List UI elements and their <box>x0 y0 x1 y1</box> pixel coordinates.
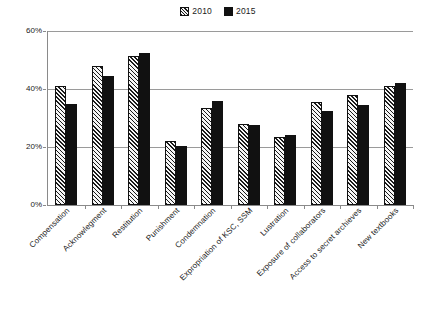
x-axis-labels: CompensationAcknowlegmentRestitutionPuni… <box>47 206 412 311</box>
x-axis-label-3: Punishment <box>144 206 181 243</box>
bar-group-7 <box>304 31 341 205</box>
bar-2015-2[interactable] <box>139 53 150 205</box>
x-axis-label-6: Lustration <box>259 206 291 238</box>
bar-group-8 <box>340 31 377 205</box>
bar-2010-1[interactable] <box>92 66 103 205</box>
bar-2015-3[interactable] <box>176 146 187 205</box>
legend-entry-2010: 2010 <box>180 6 212 16</box>
x-axis-label-2: Restitution <box>111 206 145 240</box>
bar-group-6 <box>267 31 304 205</box>
bar-2010-7[interactable] <box>311 102 322 205</box>
y-tick-mark-60 <box>43 31 46 32</box>
y-tick-label-60: 60% <box>2 26 42 35</box>
bar-2015-6[interactable] <box>285 135 296 205</box>
x-tick-mark-end <box>413 205 414 209</box>
legend-label-2010: 2010 <box>192 6 212 16</box>
bar-2010-0[interactable] <box>55 86 66 205</box>
bar-2010-3[interactable] <box>165 141 176 205</box>
x-axis-label-8: Access to secret archieves <box>288 206 363 281</box>
bar-2010-8[interactable] <box>347 95 358 205</box>
legend-label-2015: 2015 <box>236 6 256 16</box>
y-tick-mark-20 <box>43 147 46 148</box>
bar-group-3 <box>158 31 195 205</box>
y-tick-mark-40 <box>43 89 46 90</box>
y-tick-label-0: 0% <box>2 200 42 209</box>
bar-2015-9[interactable] <box>395 83 406 205</box>
hatched-square-icon <box>180 7 189 16</box>
bar-2015-5[interactable] <box>249 125 260 205</box>
bar-group-2 <box>121 31 158 205</box>
bar-group-0 <box>48 31 85 205</box>
y-tick-mark-0 <box>43 205 46 206</box>
bar-2010-2[interactable] <box>128 56 139 205</box>
bar-group-5 <box>231 31 268 205</box>
bar-2010-9[interactable] <box>384 86 395 205</box>
bar-series-container <box>48 31 413 205</box>
bar-2010-6[interactable] <box>274 137 285 205</box>
bar-group-1 <box>85 31 122 205</box>
bar-2015-7[interactable] <box>322 111 333 205</box>
x-axis-label-7: Exposure of collaborators <box>255 206 327 278</box>
plot-area <box>47 31 413 206</box>
bar-2010-4[interactable] <box>201 108 212 205</box>
bar-group-9 <box>377 31 414 205</box>
chart-legend: 2010 2015 <box>0 6 436 16</box>
bar-2015-8[interactable] <box>358 105 369 205</box>
y-tick-label-40: 40% <box>2 84 42 93</box>
bar-2010-5[interactable] <box>238 124 249 205</box>
bar-2015-1[interactable] <box>103 76 114 205</box>
bar-2015-0[interactable] <box>66 104 77 206</box>
bar-group-4 <box>194 31 231 205</box>
legend-entry-2015: 2015 <box>224 6 256 16</box>
x-axis-label-5: Expropriation of KSC, SSM <box>178 206 254 282</box>
y-tick-label-20: 20% <box>2 142 42 151</box>
solid-square-icon <box>224 7 233 16</box>
bar-2015-4[interactable] <box>212 101 223 205</box>
